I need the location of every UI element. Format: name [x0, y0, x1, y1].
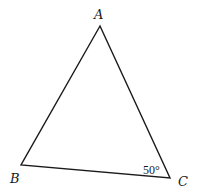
triangle-abc [21, 26, 170, 178]
angle-label-c: 50° [143, 163, 160, 177]
vertex-label-b: B [9, 171, 20, 186]
triangle-diagram: A B C 50° [0, 0, 199, 194]
triangle-canvas: A B C 50° [0, 0, 199, 194]
vertex-label-a: A [93, 7, 103, 22]
vertex-label-c: C [178, 174, 188, 189]
